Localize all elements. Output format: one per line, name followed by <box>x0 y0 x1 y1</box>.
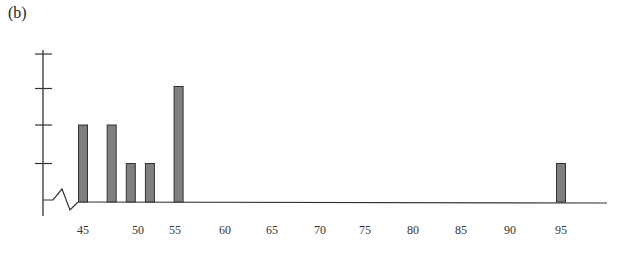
x-tick-label: 50 <box>132 223 144 237</box>
x-tick-label: 80 <box>407 223 419 237</box>
x-tick-label: 95 <box>555 223 567 237</box>
bar <box>107 125 116 202</box>
x-tick-label: 75 <box>359 223 371 237</box>
bar <box>174 87 183 203</box>
x-tick-label: 70 <box>314 223 326 237</box>
bar <box>126 164 135 203</box>
x-tick-label: 85 <box>455 223 467 237</box>
bar-chart: 4550556065707580859095 <box>0 0 629 253</box>
x-tick-label: 65 <box>266 223 278 237</box>
bar <box>145 164 154 203</box>
x-tick-label: 90 <box>504 223 516 237</box>
x-tick-label: 55 <box>169 223 181 237</box>
x-tick-label: 60 <box>219 223 231 237</box>
bar <box>79 125 88 202</box>
bar <box>557 164 566 203</box>
x-tick-label: 45 <box>77 223 89 237</box>
axis-break-icon <box>43 189 78 210</box>
x-axis <box>78 202 607 203</box>
